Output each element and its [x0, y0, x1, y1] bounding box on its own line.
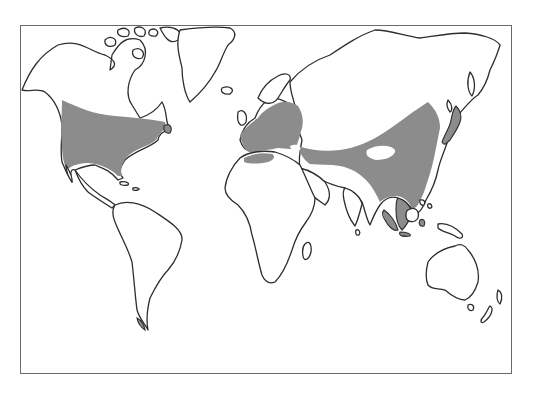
newfoundland — [164, 125, 171, 133]
sri-lanka — [356, 230, 360, 235]
world-map — [0, 0, 546, 400]
scandinavia — [258, 74, 290, 103]
range-europe — [240, 102, 303, 153]
iceland — [221, 87, 232, 94]
caribbean — [120, 182, 139, 191]
central-america — [75, 170, 115, 208]
british-isles — [238, 111, 247, 125]
borneo — [406, 208, 418, 221]
tasmania — [468, 304, 474, 310]
range-sulawesi — [419, 219, 425, 226]
new-zealand — [481, 290, 502, 323]
south-america — [113, 202, 182, 330]
range-java — [400, 232, 411, 236]
madagascar — [303, 242, 312, 259]
range-gap-caspian — [290, 145, 300, 151]
australia — [426, 245, 478, 300]
new-guinea — [438, 224, 463, 239]
africa — [225, 151, 315, 282]
